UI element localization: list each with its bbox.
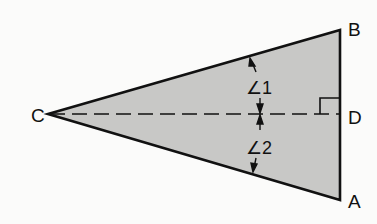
triangle-abc [48, 30, 340, 200]
triangle-diagram: C B D A ∠1 ∠2 [0, 0, 377, 224]
vertex-label-c: C [31, 105, 45, 126]
angle-label-1: ∠1 [246, 78, 272, 98]
vertex-label-b: B [348, 19, 361, 40]
vertex-label-a: A [348, 191, 361, 212]
angle-label-2: ∠2 [246, 138, 272, 158]
vertex-label-d: D [348, 107, 362, 128]
